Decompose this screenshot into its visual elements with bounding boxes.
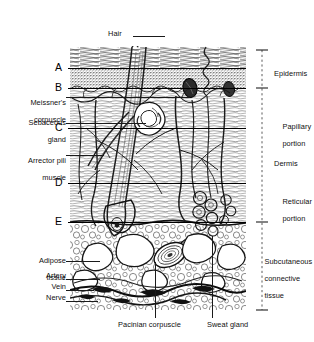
hair-label: Hair (108, 30, 122, 39)
papillary-portion-label: Papillary portion (274, 114, 311, 157)
papillary-portion-label-line1: Papillary (282, 122, 311, 131)
adipose-tissue-label-line1: Adipose (39, 256, 66, 265)
sebaceous-gland-label-line1: Sebaceous (29, 118, 66, 127)
pacinian-corpuscle-leader (155, 262, 156, 318)
skin-cross-section-figure: A B C D E Hair Meissner's corpuscle Seba… (0, 0, 314, 342)
sebaceous-gland-structure (134, 102, 165, 135)
sebaceous-gland-label: Sebaceous gland (2, 110, 66, 153)
marker-rule-b (68, 88, 246, 89)
marker-letter-e: E (55, 216, 62, 227)
subcutaneous-label-line1: Subcutaneous (264, 257, 312, 266)
marker-rule-e (68, 222, 246, 223)
adipose-tissue-leader (66, 261, 100, 262)
nerve-label: Nerve (2, 294, 66, 303)
nerve-leader (66, 301, 98, 302)
stratum-corneum-layer (70, 47, 246, 68)
arrector-pili-muscle-leader (66, 155, 104, 156)
marker-rule-a (68, 68, 246, 69)
vein-leader (66, 290, 94, 291)
hair-leader-line (133, 36, 165, 37)
subcutaneous-connective-tissue-label: Subcutaneous connective tissue (256, 249, 312, 309)
artery-label: Artery (2, 272, 66, 281)
arrector-pili-muscle-label-line1: Arrector pili (28, 156, 66, 165)
meissners-corpuscle-label-line1: Meissner's (30, 98, 66, 107)
artery-leader (66, 279, 100, 280)
sebaceous-gland-label-line2: gland (48, 135, 66, 144)
papillary-portion-label-line2: portion (282, 139, 305, 148)
meissners-corpuscle-leader (66, 97, 190, 98)
pacinian-corpuscle-label: Pacinian corpuscle (118, 321, 181, 330)
vein-label: Vein (2, 283, 66, 292)
hair-shaft-outer (137, 6, 176, 47)
subcutaneous-label-line3: tissue (264, 291, 284, 300)
sweat-gland-leader (212, 236, 213, 318)
epidermis-germinal-layer (70, 68, 246, 88)
reticular-portion-label: Reticular portion (274, 189, 312, 232)
arrector-pili-muscle-label: Arrector pili muscle (2, 148, 66, 191)
marker-rule-c (68, 128, 246, 129)
sebaceous-gland-leader (66, 123, 146, 124)
subcutaneous-label-line2: connective (264, 274, 300, 283)
dermis-label: Dermis (274, 160, 298, 169)
arrector-pili-muscle-label-line2: muscle (42, 173, 66, 182)
marker-rule-d (68, 183, 246, 184)
marker-letter-a: A (55, 62, 62, 73)
epidermis-label: Epidermis (274, 70, 307, 79)
tissue-layers (70, 6, 246, 310)
reticular-portion-label-line2: portion (282, 214, 305, 223)
reticular-portion-label-line1: Reticular (282, 197, 312, 206)
hair-shaft-inner (132, 6, 171, 47)
sweat-gland-label: Sweat gland (207, 321, 248, 330)
